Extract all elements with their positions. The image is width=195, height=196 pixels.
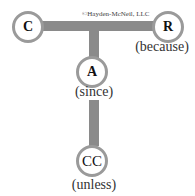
claim-node: C (12, 11, 44, 43)
argument-diagram: ©Hayden-McNeil, LLC C R (because) A (sin… (0, 0, 195, 196)
assumption-connector (89, 26, 99, 58)
reason-caption: (because) (131, 39, 193, 55)
assumption-letter: A (87, 64, 97, 80)
copyright-notice: ©Hayden-McNeil, LLC (82, 10, 150, 18)
assumption-caption: (since) (64, 84, 124, 100)
reason-letter: R (163, 19, 173, 35)
counterclaim-caption: (unless) (60, 177, 128, 193)
counterclaim-letter: CC (82, 153, 102, 170)
claim-letter: C (23, 19, 33, 35)
counterclaim-node: CC (76, 145, 108, 177)
counterclaim-connector (89, 100, 99, 146)
